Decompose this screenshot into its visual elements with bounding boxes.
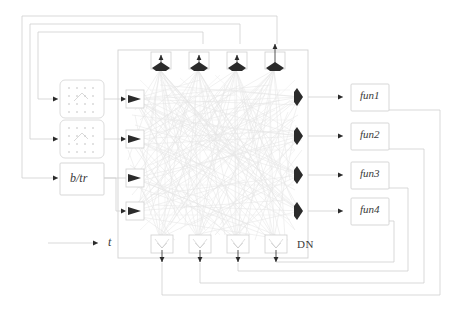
time-input-label: t xyxy=(108,236,111,248)
right-neuron-column xyxy=(294,88,343,220)
sensor-to-dn-lines xyxy=(104,99,126,211)
diagram-graphics xyxy=(0,0,451,319)
function-block-1-label: fun1 xyxy=(360,90,380,101)
dn-block-label: DN xyxy=(297,239,314,250)
function-block-2-label: fun2 xyxy=(360,129,380,140)
top-neuron-column xyxy=(151,44,285,71)
left-feed-stubs xyxy=(22,99,58,178)
function-block-4-label: fun4 xyxy=(360,204,380,215)
brain-trunk-block-label: b/tr xyxy=(70,172,87,184)
diagram-canvas: fun1 fun2 fun3 fun4 b/tr t DN xyxy=(0,0,451,319)
function-block-3-label: fun3 xyxy=(360,168,380,179)
internal-mesh xyxy=(126,70,302,240)
